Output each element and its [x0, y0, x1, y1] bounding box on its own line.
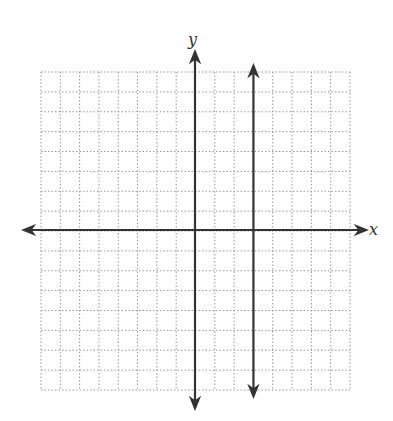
x-axis-label: x — [369, 220, 378, 239]
y-axis-label: y — [188, 30, 197, 49]
coordinate-plane — [0, 0, 393, 421]
